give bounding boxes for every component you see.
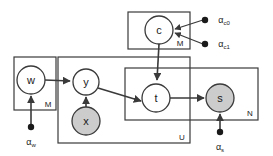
alpha-s-dot[interactable] [217,129,223,135]
alpha-w-dot[interactable] [28,124,34,130]
alpha-w-subscript: w [30,142,36,148]
hyperparameter-alpha-w[interactable]: αw [26,124,36,148]
hyperparameter-alpha-s[interactable]: αs [216,129,224,153]
plate-u-label: U [179,133,185,142]
alpha-c0-subscript: c0 [223,20,230,26]
node-t-label: t [154,92,157,104]
node-s[interactable]: s [206,84,234,112]
node-y[interactable]: y [73,69,99,95]
node-w[interactable]: w [17,66,45,94]
node-x[interactable]: x [72,107,100,135]
edge-y-to-t [98,88,141,101]
node-x-label: x [83,115,89,127]
node-y-label: y [83,76,89,88]
alpha-c0-label: αc0 [218,15,230,26]
alpha-c1-subscript: c1 [223,44,230,50]
edge-w-to-y [45,80,70,81]
node-w-label: w [26,74,35,86]
node-c[interactable]: c [145,16,173,44]
node-s-label: s [217,92,223,104]
hyperparameter-alpha-c1[interactable]: αc1 [202,39,231,50]
edge-alpha-c0-to-c [175,20,203,29]
hyperparameter-alpha-c0[interactable]: αc0 [202,15,231,26]
plate-w-label: M [45,100,52,109]
plate-c-label: M [177,39,184,48]
alpha-c1-dot[interactable] [202,41,208,47]
alpha-c0-dot[interactable] [202,17,208,23]
node-c-label: c [156,24,162,36]
diagram-canvas: M M U N [0,0,273,156]
node-t[interactable]: t [142,84,170,112]
alpha-s-subscript: s [221,147,224,153]
alpha-s-label: αs [216,142,224,153]
alpha-c1-label: αc1 [218,39,230,50]
graphical-model-svg: M M U N [0,0,273,156]
plate-n-label: N [247,109,253,118]
alpha-w-label: αw [26,137,36,148]
